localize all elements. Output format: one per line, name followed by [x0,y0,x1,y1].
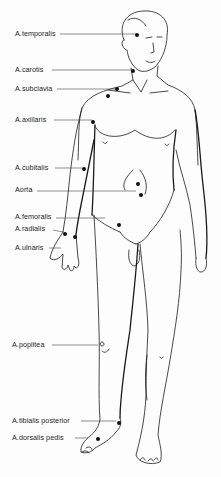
pulse-point-ulnaris [73,235,77,239]
pulse-point-femoralis [117,223,121,227]
label-cubitalis: A.cubitalis [15,164,48,172]
label-temporalis: A.temporalis [15,30,56,38]
label-radialis: A.radialis [15,225,45,233]
pulse-point-cubitalis [82,167,86,171]
label-axillaris: A.axillaris [15,116,46,124]
legs [81,215,182,464]
pulse-point-dorsalis [96,437,100,441]
pulse-point-carotis [131,69,135,73]
label-subclavia: A.subclavia [15,85,52,93]
pulse-point-subclavia [115,87,119,91]
pulse-point-radialis [63,232,67,236]
pulse-dots [63,33,143,441]
pulse-point-aorta [139,193,143,197]
pulse-point-temporalis [135,33,139,37]
label-ulnaris: A.ulnaris [15,244,43,252]
pulse-point-subclavia [106,94,110,98]
label-dorsalis-pedis: A.dorsalis pedis [12,434,64,442]
pulse-point-axillaris [91,120,95,124]
label-carotis: A.carotis [15,66,43,74]
label-poplitea: A.poplitea [12,341,44,349]
pulse-point-tibialis [117,421,121,425]
label-tibialis-posterior: A.tibialis posterior [12,417,70,425]
left-arm [50,108,94,271]
label-femoralis: A.femoralis [15,213,52,221]
leader-lines [37,34,137,438]
head [122,11,168,71]
right-arm [176,110,207,272]
pulse-points-diagram: A.temporalis A.carotis A.subclavia A.axi… [0,0,221,477]
leader-line-radialis [53,230,63,232]
pulse-point-aorta [136,182,140,186]
label-aorta: Aorta [15,186,32,194]
